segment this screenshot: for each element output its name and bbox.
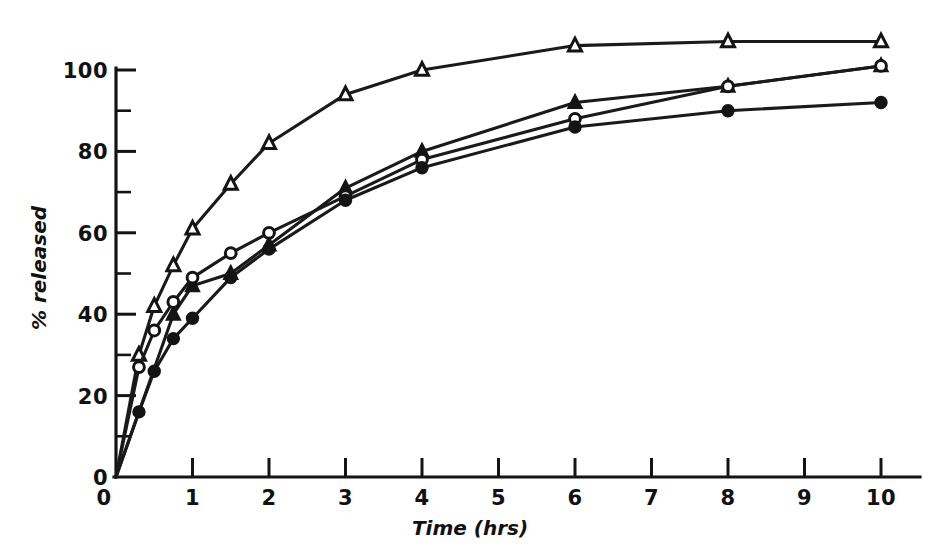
marker-open-triangle <box>874 34 887 47</box>
marker-filled-circle <box>722 105 733 116</box>
marker-open-triangle <box>339 87 352 100</box>
x-tick-label: 9 <box>797 486 812 510</box>
marker-open-triangle <box>262 136 275 149</box>
marker-open-circle <box>149 325 160 336</box>
y-axis-tick-labels: 020406080100 <box>63 59 108 490</box>
marker-open-circle <box>225 248 236 259</box>
x-tick-label: 10 <box>866 486 896 510</box>
y-axis-title: % released <box>27 205 51 330</box>
x-tick-label: 0 <box>96 486 111 510</box>
marker-filled-circle <box>569 121 580 132</box>
marker-open-triangle <box>721 34 734 47</box>
x-axis-title: Time (hrs) <box>412 516 528 540</box>
marker-open-circle <box>876 61 887 72</box>
marker-filled-circle <box>416 162 427 173</box>
x-axis-tick-labels: 012345678910 <box>96 486 896 510</box>
marker-open-circle <box>264 227 275 238</box>
marker-filled-circle <box>168 333 179 344</box>
marker-open-circle <box>723 81 734 92</box>
x-tick-label: 6 <box>567 486 582 510</box>
marker-filled-circle <box>875 97 886 108</box>
x-tick-label: 1 <box>185 486 200 510</box>
marker-open-circle <box>187 272 198 283</box>
marker-filled-circle <box>133 406 144 417</box>
data-series-layer <box>116 34 888 477</box>
series-filled-circle <box>116 97 887 477</box>
y-tick-label: 20 <box>78 385 108 409</box>
marker-open-triangle <box>148 299 161 312</box>
y-tick-label: 100 <box>63 59 108 83</box>
marker-filled-circle <box>340 195 351 206</box>
x-tick-label: 3 <box>338 486 353 510</box>
x-tick-label: 2 <box>261 486 276 510</box>
y-tick-label: 40 <box>78 303 108 327</box>
x-axis-ticks <box>193 458 882 477</box>
marker-filled-circle <box>149 366 160 377</box>
x-tick-label: 4 <box>414 486 429 510</box>
marker-filled-circle <box>263 243 274 254</box>
y-tick-label: 60 <box>78 222 108 246</box>
y-tick-label: 80 <box>78 140 108 164</box>
marker-filled-circle <box>225 272 236 283</box>
x-tick-label: 5 <box>491 486 506 510</box>
x-tick-label: 8 <box>720 486 735 510</box>
marker-open-circle <box>134 362 145 373</box>
marker-open-triangle <box>415 63 428 76</box>
marker-filled-circle <box>187 313 198 324</box>
chart-canvas: 020406080100 012345678910 Time (hrs) % r… <box>0 0 949 556</box>
marker-open-circle <box>168 297 179 308</box>
x-tick-label: 7 <box>644 486 659 510</box>
series-line <box>116 103 881 477</box>
series-filled-triangle <box>116 59 888 477</box>
marker-open-triangle <box>568 38 581 51</box>
release-profile-chart: 020406080100 012345678910 Time (hrs) % r… <box>0 0 949 556</box>
